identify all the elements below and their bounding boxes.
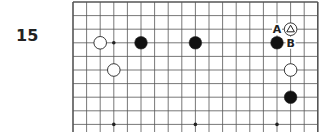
hoshi-point <box>275 123 279 127</box>
hoshi-point <box>112 123 116 127</box>
point-label-a: A <box>273 23 282 36</box>
black-stone <box>135 37 148 50</box>
white-stone <box>284 64 297 77</box>
black-stone <box>284 91 297 104</box>
hoshi-point <box>112 41 116 45</box>
black-stone <box>189 37 202 50</box>
point-label-b: B <box>286 37 294 50</box>
white-stone <box>94 37 107 50</box>
hoshi-point <box>194 123 198 127</box>
black-stone <box>271 37 284 50</box>
go-board: AB <box>0 0 328 132</box>
white-stone <box>108 64 121 77</box>
